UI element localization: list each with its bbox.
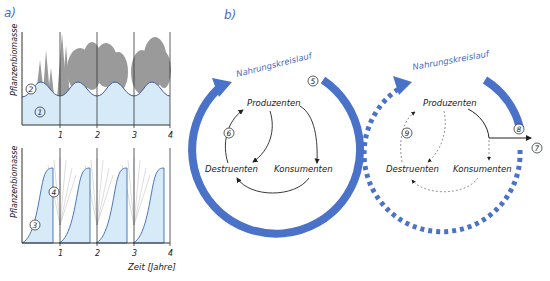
panel-b-label: b)	[224, 8, 236, 22]
marker-2-label: 2	[29, 85, 34, 94]
right-dashed-flow-arrows	[401, 111, 489, 192]
marker-8-label: 8	[517, 125, 522, 134]
solid-cycle-segment	[485, 80, 520, 128]
chart-annual: 1 2 3 4 Zeit [Jahre] Pflanzenbiomasse 4 …	[10, 146, 176, 272]
chart-forest: 1 2 3 4 Pflanzenbiomasse 2 1	[10, 24, 173, 140]
right-consumers-label: Konsumenten	[453, 164, 512, 174]
right-producers-label: Produzenten	[423, 98, 477, 108]
top-tick-2: 2	[95, 131, 100, 140]
right-decomposers-label: Destruenten	[386, 164, 439, 174]
left-flow-arrows	[225, 106, 317, 193]
diagram-canvas: a) 1 2 3 4	[0, 0, 550, 281]
marker-1-label: 1	[38, 108, 43, 117]
marker-3-label: 3	[33, 221, 38, 230]
marker-9-label: 9	[405, 129, 410, 138]
panel-a-label: a)	[4, 6, 16, 20]
bottom-tick-1: 1	[58, 249, 63, 258]
bottom-ylabel: Pflanzenbiomasse	[10, 146, 19, 218]
left-consumers-label: Konsumenten	[274, 164, 333, 174]
top-tick-4: 4	[168, 131, 173, 140]
dashed-cycle-arc	[364, 88, 520, 232]
forest-biomass-area	[22, 82, 170, 125]
marker-7-label: 7	[535, 144, 540, 153]
open-nutrient-cycle: Nahrungskreislauf Produzenten Destruente…	[364, 48, 542, 231]
left-cycle-title: Nahrungskreislauf	[235, 50, 315, 79]
bottom-tick-3: 3	[132, 249, 137, 258]
bottom-tick-2: 2	[95, 249, 100, 258]
closed-nutrient-cycle: Nahrungskreislauf 5 Produzenten Destruen…	[192, 50, 360, 234]
left-producers-label: Produzenten	[247, 98, 301, 108]
marker-5-label: 5	[311, 77, 316, 86]
top-ylabel: Pflanzenbiomasse	[10, 24, 19, 96]
right-cycle-title: Nahrungskreislauf	[412, 48, 492, 72]
bottom-xlabel: Zeit [Jahre]	[127, 262, 176, 272]
top-tick-3: 3	[132, 131, 137, 140]
top-tick-1: 1	[58, 131, 63, 140]
bottom-tick-4: 4	[168, 249, 173, 258]
marker-6-label: 6	[227, 129, 232, 138]
left-decomposers-label: Destruenten	[205, 164, 258, 174]
grass-illustration	[48, 158, 150, 225]
marker-4-label: 4	[52, 188, 57, 197]
